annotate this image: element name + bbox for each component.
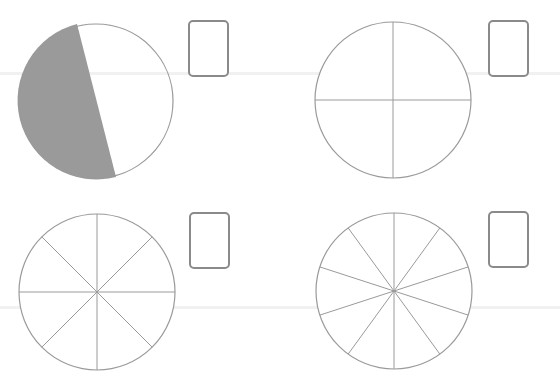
answer-box-quarters[interactable] <box>488 20 529 77</box>
circle-tenths <box>316 213 472 369</box>
circle-quarters <box>315 22 471 178</box>
fraction-circles-diagram <box>0 0 560 381</box>
circle-eighths <box>19 214 175 370</box>
answer-box-halves[interactable] <box>188 20 229 77</box>
circle-halves <box>18 24 173 179</box>
answer-box-eighths[interactable] <box>189 212 230 269</box>
shaded-sector <box>18 24 116 179</box>
answer-box-tenths[interactable] <box>488 211 529 268</box>
